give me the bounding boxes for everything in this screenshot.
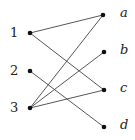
edge-3-c xyxy=(30,90,104,108)
node-label-d: d xyxy=(120,117,128,132)
edges-layer xyxy=(30,15,104,127)
node-c xyxy=(102,88,107,93)
node-d xyxy=(102,125,107,130)
node-2 xyxy=(28,69,33,74)
node-a xyxy=(101,13,106,18)
node-label-1: 1 xyxy=(10,25,18,40)
node-label-2: 2 xyxy=(10,63,18,78)
node-label-c: c xyxy=(120,80,128,95)
node-3 xyxy=(28,106,33,111)
nodes-layer xyxy=(28,13,107,130)
graph-svg: 123abcd xyxy=(0,0,135,140)
node-1 xyxy=(28,31,33,36)
node-b xyxy=(102,50,107,55)
node-label-a: a xyxy=(120,5,128,20)
labels-layer: 123abcd xyxy=(10,5,128,132)
node-label-3: 3 xyxy=(10,100,18,115)
bipartite-graph-diagram: 123abcd xyxy=(0,0,135,140)
edge-1-a xyxy=(30,15,103,33)
node-label-b: b xyxy=(120,42,128,57)
